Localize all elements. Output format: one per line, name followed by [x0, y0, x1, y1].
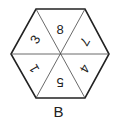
- segment-top-value: 8: [56, 22, 63, 37]
- segment-bottom-value: 5: [56, 75, 63, 90]
- hexagon-figure: 8 7 4 5 1 3 B: [0, 0, 117, 126]
- figure-label: B: [0, 103, 117, 120]
